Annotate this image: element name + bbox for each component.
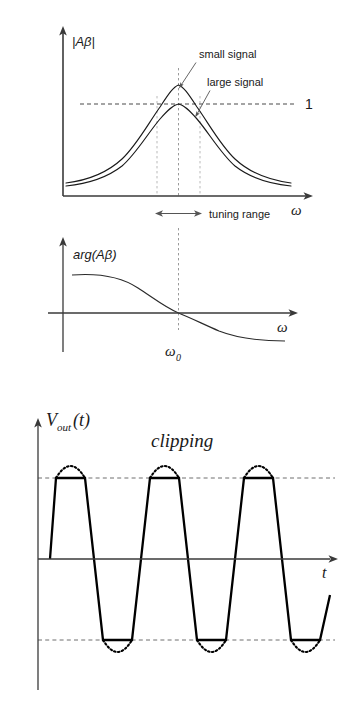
unclipped-peak-1 — [56, 466, 85, 478]
unclipped-trough-1 — [103, 640, 132, 652]
resonance-frequency-label: ω — [165, 343, 176, 359]
magnitude-x-axis-label: ω — [291, 202, 302, 218]
waveform-y-axis-label-tail: (t) — [73, 410, 90, 431]
small-signal-leader — [181, 63, 197, 87]
unclipped-trough-3 — [291, 640, 320, 652]
unclipped-peak-2 — [150, 466, 179, 478]
oscillator-figure: |Aβ| ω 1 small signal large signal tunin… — [0, 0, 351, 706]
resonance-frequency-subscript: 0 — [176, 352, 181, 363]
waveform-x-axis-label: t — [322, 564, 327, 581]
unity-gain-label: 1 — [305, 96, 313, 112]
large-signal-leader-arrowhead — [195, 111, 200, 118]
figure-canvas: |Aβ| ω 1 small signal large signal tunin… — [0, 0, 351, 706]
phase-x-axis-label: ω — [277, 319, 288, 335]
large-signal-leader — [197, 91, 211, 116]
phase-y-axis-label: arg(Aβ) — [73, 247, 117, 262]
waveform-y-axis-label-sub: out — [57, 421, 72, 433]
tuning-range-label: tuning range — [209, 208, 270, 220]
phase-response-panel: arg(Aβ) ω ω 0 — [48, 228, 298, 363]
magnitude-response-panel: |Aβ| ω 1 small signal large signal tunin… — [59, 26, 313, 220]
large-signal-label: large signal — [207, 76, 263, 88]
output-waveform-panel: V out (t) t clipping — [34, 410, 338, 690]
small-signal-label: small signal — [199, 48, 256, 60]
magnitude-y-axis-label: |Aβ| — [72, 34, 95, 49]
clipping-label: clipping — [151, 430, 213, 451]
unclipped-trough-2 — [197, 640, 226, 652]
unclipped-peak-3 — [244, 466, 273, 478]
